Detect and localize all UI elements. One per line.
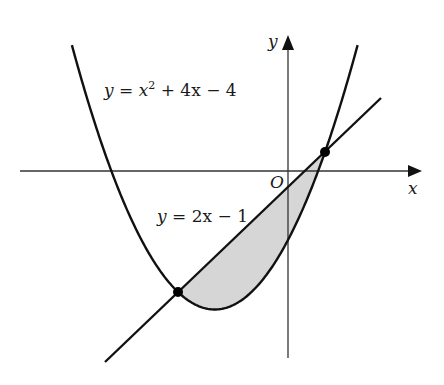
parabola-equation-label: y = x2 + 4x − 4 — [104, 82, 237, 99]
eq1-rest: + 4x − 4 — [161, 80, 237, 100]
eq1-exponent: 2 — [148, 79, 155, 92]
eq1-y: y — [104, 80, 114, 100]
x-axis-label: x — [408, 180, 418, 197]
x-axis-arrow-icon — [408, 165, 422, 177]
origin-label: O — [270, 174, 284, 191]
shaded-region — [178, 152, 325, 310]
eq1-x: x — [139, 80, 149, 100]
eq2-rest: 2x − 1 — [192, 206, 248, 226]
line-equation-label: y = 2x − 1 — [157, 208, 248, 225]
eq1-equals: = — [119, 80, 133, 100]
intersection-point-left — [173, 287, 183, 297]
eq2-y: y — [157, 206, 167, 226]
y-axis-label: y — [268, 33, 278, 50]
diagram-canvas: y = x2 + 4x − 4 y = 2x − 1 y x O — [0, 0, 444, 385]
y-axis-arrow-icon — [282, 35, 294, 50]
graph-svg — [0, 0, 444, 385]
intersection-point-right — [320, 147, 330, 157]
line-curve — [105, 98, 381, 362]
eq2-equals: = — [172, 206, 186, 226]
